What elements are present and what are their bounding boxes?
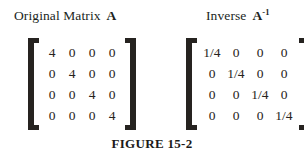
figure-15-2: Original MatrixA InverseA-1 4 0 0 0 0 4 … — [0, 0, 304, 161]
matrix-cell: 0 — [82, 42, 102, 63]
left-bracket-icon — [28, 38, 39, 130]
matrix-cell: 0 — [62, 84, 82, 105]
matrix-cell: 0 — [102, 63, 122, 84]
matrix-cell: 0 — [224, 105, 248, 126]
matrix-cell: 0 — [224, 42, 248, 63]
inverse-matrix-title-text: Inverse — [206, 8, 246, 23]
left-bracket-icon — [186, 38, 197, 130]
inverse-matrix-rows: 1/4 0 0 0 0 1/4 0 0 0 0 1/4 0 0 0 0 1/ — [197, 38, 299, 130]
original-matrix-rows: 4 0 0 0 0 4 0 0 0 0 4 0 0 0 0 4 — [39, 38, 125, 130]
matrix-cell: 0 — [42, 105, 62, 126]
matrix-row: 0 0 0 4 — [42, 105, 122, 126]
matrix-cell: 0 — [272, 84, 296, 105]
matrix-symbol-a: A — [107, 8, 117, 23]
matrix-cell: 4 — [82, 84, 102, 105]
matrix-cell: 1/4 — [200, 42, 224, 63]
matrix-symbol-a-inverse: A — [252, 8, 262, 23]
matrix-cell: 0 — [272, 63, 296, 84]
matrix-cell: 1/4 — [248, 84, 272, 105]
matrix-cell: 1/4 — [224, 63, 248, 84]
matrix-row: 0 0 4 0 — [42, 84, 122, 105]
matrix-row: 0 0 0 1/4 — [200, 105, 296, 126]
inverse-exponent: -1 — [262, 7, 269, 17]
matrix-cell: 0 — [224, 84, 248, 105]
right-bracket-icon — [299, 38, 304, 130]
original-matrix: 4 0 0 0 0 4 0 0 0 0 4 0 0 0 0 4 — [28, 38, 136, 130]
matrix-cell: 0 — [82, 105, 102, 126]
matrix-cell: 0 — [248, 42, 272, 63]
matrix-row: 4 0 0 0 — [42, 42, 122, 63]
matrix-cell: 0 — [248, 105, 272, 126]
matrix-row: 0 1/4 0 0 — [200, 63, 296, 84]
figure-caption: FIGURE 15-2 — [0, 136, 304, 152]
matrix-cell: 0 — [82, 63, 102, 84]
matrix-cell: 0 — [62, 105, 82, 126]
right-bracket-icon — [125, 38, 136, 130]
matrix-cell: 0 — [248, 63, 272, 84]
inverse-matrix: 1/4 0 0 0 0 1/4 0 0 0 0 1/4 0 0 0 0 1/ — [186, 38, 304, 130]
matrix-cell: 4 — [62, 63, 82, 84]
matrix-cell: 1/4 — [272, 105, 296, 126]
matrix-cell: 0 — [102, 42, 122, 63]
matrix-row: 0 4 0 0 — [42, 63, 122, 84]
matrix-cell: 0 — [102, 84, 122, 105]
original-matrix-title-text: Original Matrix — [14, 8, 101, 23]
matrix-row: 0 0 1/4 0 — [200, 84, 296, 105]
matrix-cell: 0 — [200, 84, 224, 105]
matrix-cell: 0 — [42, 63, 62, 84]
matrix-row: 1/4 0 0 0 — [200, 42, 296, 63]
inverse-matrix-title: InverseA-1 — [206, 9, 269, 23]
original-matrix-title: Original MatrixA — [14, 9, 116, 23]
matrix-cell: 4 — [42, 42, 62, 63]
matrix-cell: 0 — [272, 42, 296, 63]
matrix-cell: 0 — [62, 42, 82, 63]
matrix-cell: 0 — [200, 63, 224, 84]
matrix-cell: 0 — [42, 84, 62, 105]
matrix-cell: 4 — [102, 105, 122, 126]
matrix-cell: 0 — [200, 105, 224, 126]
